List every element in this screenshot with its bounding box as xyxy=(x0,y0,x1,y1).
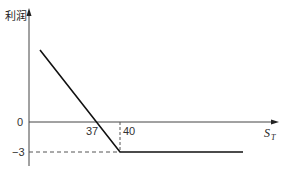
y-tick-neg3: −3 xyxy=(12,146,25,158)
profit-chart: 利润 0 −3 37 40 S T xyxy=(0,0,283,182)
x-axis-arrow-icon xyxy=(271,120,279,125)
x-tick-37: 37 xyxy=(86,125,98,137)
profit-line xyxy=(40,50,243,152)
y-axis-label: 利润 xyxy=(5,9,27,23)
y-tick-0: 0 xyxy=(17,116,23,128)
x-tick-40: 40 xyxy=(123,125,135,137)
x-axis-label: S xyxy=(264,126,270,140)
y-axis-arrow-icon xyxy=(27,8,32,16)
x-axis-label-subscript: T xyxy=(271,133,276,142)
